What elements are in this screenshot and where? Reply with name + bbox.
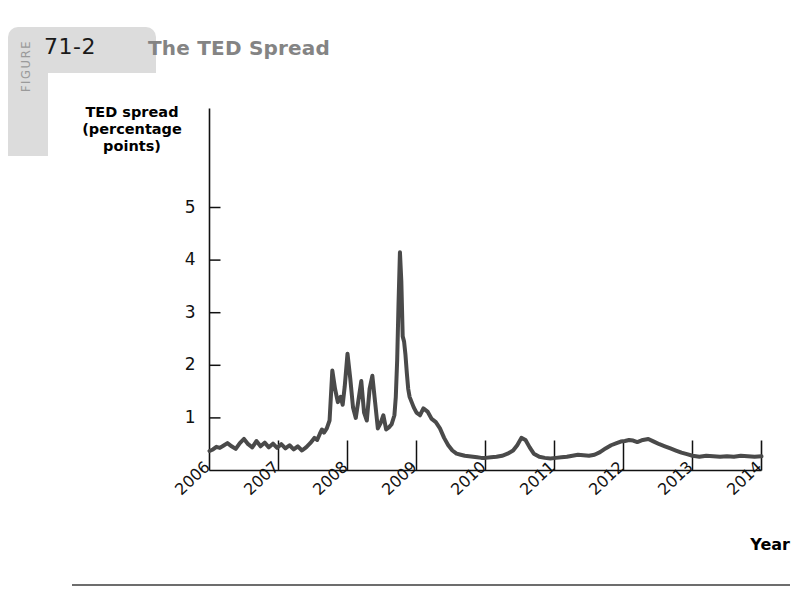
figure-page: FIGURE 71-2 The TED Spread TED spread (p…	[0, 0, 805, 601]
y-tick-label-2: 2	[170, 354, 196, 374]
figure-bottom-rule	[72, 584, 790, 586]
ted-spread-line-chart	[0, 0, 805, 601]
y-tick-label-4: 4	[170, 249, 196, 269]
y-tick-label-5: 5	[170, 197, 196, 217]
chart-axes	[210, 109, 762, 471]
y-tick-label-3: 3	[170, 302, 196, 322]
x-axis-title: Year	[750, 535, 790, 554]
y-tick-label-1: 1	[170, 407, 196, 427]
chart-series	[210, 252, 762, 458]
